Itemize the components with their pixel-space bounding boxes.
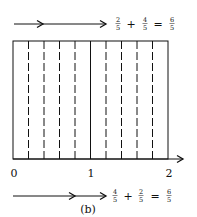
- divided-rectangle: [13, 41, 168, 159]
- top-arrow: [14, 21, 106, 28]
- fraction-addition-diagram: 2 5 + 4 5 = 6 5 0 1 2: [0, 0, 197, 217]
- bottom-arrow: [13, 193, 106, 200]
- number-line: 0 1 2: [11, 156, 184, 181]
- tick-label-1: 1: [88, 167, 95, 180]
- svg-text:5: 5: [143, 24, 147, 32]
- tick-label-0: 0: [11, 167, 18, 180]
- svg-text:5: 5: [113, 196, 117, 204]
- svg-text:5: 5: [116, 24, 120, 32]
- top-equation: 2 5 + 4 5 = 6 5: [116, 16, 175, 32]
- svg-text:5: 5: [167, 196, 171, 204]
- figure-caption: (b): [80, 203, 96, 216]
- svg-text:+: +: [123, 190, 132, 203]
- svg-text:5: 5: [170, 24, 174, 32]
- svg-text:=: =: [150, 190, 159, 203]
- svg-text:+: +: [126, 18, 135, 31]
- bottom-equation: 4 5 + 2 5 = 6 5: [113, 188, 172, 204]
- svg-text:5: 5: [139, 196, 143, 204]
- tick-label-2: 2: [166, 167, 173, 180]
- svg-text:=: =: [153, 18, 162, 31]
